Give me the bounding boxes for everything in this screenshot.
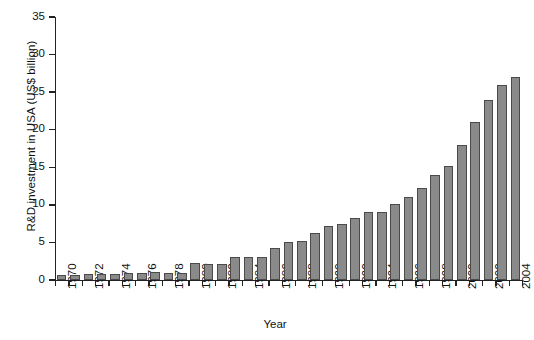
x-tick	[282, 280, 283, 286]
bar	[470, 122, 480, 280]
bar	[310, 233, 320, 280]
x-tick	[188, 280, 189, 286]
y-tick-label: 20	[21, 122, 45, 134]
bar	[444, 166, 454, 280]
bar	[364, 212, 374, 280]
bar	[324, 226, 334, 280]
chart-figure: R&D investment in USA (US$ billion) 0510…	[0, 0, 534, 340]
bar	[404, 197, 414, 280]
bar	[57, 275, 67, 280]
bar	[124, 273, 134, 280]
bar	[377, 212, 387, 280]
y-axis-line	[55, 17, 56, 280]
x-axis-title: Year	[0, 318, 534, 330]
y-tick	[49, 91, 55, 92]
y-tick-label: 15	[21, 160, 45, 172]
y-tick	[49, 16, 55, 17]
x-tick	[322, 280, 323, 286]
x-tick	[415, 280, 416, 286]
x-tick	[135, 280, 136, 286]
x-tick	[335, 280, 336, 286]
y-tick	[49, 167, 55, 168]
x-tick	[95, 280, 96, 286]
x-tick	[82, 280, 83, 286]
x-tick	[442, 280, 443, 286]
x-tick	[469, 280, 470, 286]
bar	[217, 264, 227, 280]
x-tick	[375, 280, 376, 286]
x-tick	[268, 280, 269, 286]
x-tick	[362, 280, 363, 286]
y-tick-label: 0	[21, 273, 45, 285]
x-tick	[215, 280, 216, 286]
y-tick	[49, 204, 55, 205]
x-tick	[68, 280, 69, 286]
bar	[297, 241, 307, 280]
x-tick	[429, 280, 430, 286]
bar	[230, 257, 240, 280]
bar	[430, 175, 440, 280]
y-tick-label: 30	[21, 47, 45, 59]
bar	[97, 274, 107, 280]
y-tick-label: 10	[21, 197, 45, 209]
x-tick	[162, 280, 163, 286]
bar	[177, 273, 187, 281]
x-tick	[148, 280, 149, 286]
x-tick	[402, 280, 403, 286]
x-tick	[228, 280, 229, 286]
bar	[150, 272, 160, 280]
y-tick	[49, 242, 55, 243]
x-tick	[509, 280, 510, 286]
bar	[244, 257, 254, 280]
x-tick	[389, 280, 390, 286]
y-tick-label: 25	[21, 85, 45, 97]
x-tick	[295, 280, 296, 286]
x-tick	[108, 280, 109, 286]
x-tick	[242, 280, 243, 286]
bar	[417, 188, 427, 280]
x-tick	[522, 280, 523, 286]
x-tick	[55, 280, 56, 286]
bar	[70, 275, 80, 280]
x-tick	[349, 280, 350, 286]
x-axis-title-text: Year	[263, 318, 286, 330]
bar	[190, 263, 200, 280]
y-tick-label: 35	[21, 10, 45, 22]
bar	[84, 274, 94, 280]
x-tick	[255, 280, 256, 286]
bar	[337, 224, 347, 280]
y-tick	[49, 54, 55, 55]
y-tick-label: 5	[21, 235, 45, 247]
x-tick	[122, 280, 123, 286]
plot-area: 05101520253035 1970197219741976197819801…	[55, 17, 522, 280]
bar	[284, 242, 294, 280]
bar	[497, 85, 507, 280]
bar	[511, 77, 521, 280]
bar	[457, 145, 467, 280]
x-tick	[482, 280, 483, 286]
x-tick	[175, 280, 176, 286]
y-tick	[49, 129, 55, 130]
bar	[484, 100, 494, 280]
bar	[137, 273, 147, 281]
bar	[164, 273, 174, 280]
bar	[350, 218, 360, 280]
bar	[257, 257, 267, 280]
x-tick	[309, 280, 310, 286]
bar	[390, 204, 400, 280]
x-tick	[455, 280, 456, 286]
x-tick	[495, 280, 496, 286]
bar	[110, 274, 120, 280]
x-tick	[202, 280, 203, 286]
bar	[204, 264, 214, 280]
bar	[270, 248, 280, 280]
